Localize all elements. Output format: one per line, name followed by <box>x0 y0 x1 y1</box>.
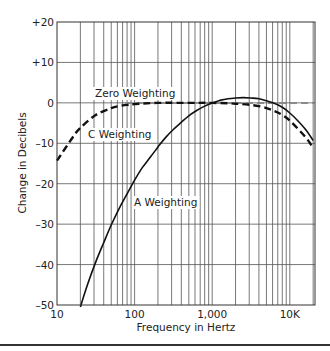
y-axis-ticks: +20+100–10–20–30–40–50 <box>32 16 54 311</box>
y-tick-label: +20 <box>32 16 54 28</box>
x-axis-ticks: 101001,00010K <box>50 308 301 320</box>
y-tick-label: –40 <box>35 259 54 271</box>
y-tick-label: +10 <box>32 56 54 68</box>
y-tick-label: –20 <box>35 178 54 190</box>
zero-weighting-label: Zero Weighting <box>95 87 175 99</box>
y-tick-label: –10 <box>35 137 54 149</box>
curve-annotations: Zero WeightingC WeightingA Weighting <box>86 87 199 209</box>
weighting-curves-chart: +20+100–10–20–30–40–50 101001,00010K Zer… <box>0 0 330 351</box>
y-tick-label: 0 <box>47 97 54 109</box>
bottom-divider <box>0 344 330 346</box>
y-tick-label: –30 <box>35 218 54 230</box>
y-axis-label: Change in Decibels <box>16 112 28 213</box>
x-axis-label: Frequency in Hertz <box>137 321 236 333</box>
x-tick-label: 10 <box>50 308 63 320</box>
c-weighting-label: C Weighting <box>88 128 152 140</box>
a-weighting-label: A Weighting <box>134 196 197 208</box>
x-tick-label: 100 <box>125 308 145 320</box>
x-tick-label: 10K <box>280 308 301 320</box>
x-tick-label: 1,000 <box>197 308 227 320</box>
